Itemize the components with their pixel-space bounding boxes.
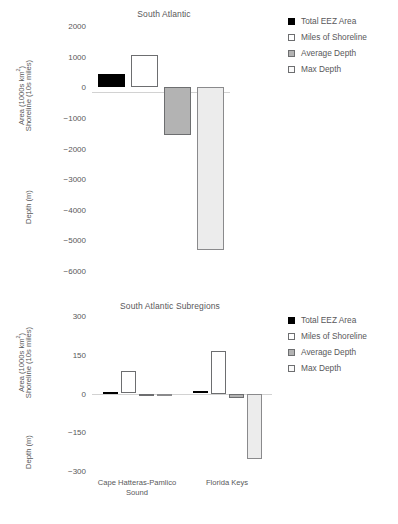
y-axis-label-shoreline-bottom: Shoreline (10s miles): [24, 300, 33, 425]
legend-swatch-avg-icon: [288, 50, 295, 57]
legend-label: Average Depth: [301, 347, 356, 357]
legend-swatch-eez-icon: [288, 18, 295, 25]
legend-item-shore[interactable]: Miles of Shoreline: [288, 328, 398, 344]
legend-label: Average Depth: [301, 48, 356, 58]
legend-bottom: Total EEZ AreaMiles of ShorelineAverage …: [288, 312, 398, 376]
legend-item-avg[interactable]: Average Depth: [288, 344, 398, 360]
bar-avg: [229, 394, 244, 399]
legend-item-eez[interactable]: Total EEZ Area: [288, 13, 398, 29]
x-axis-labels-bottom: Cape Hatteras-Pamlico SoundFlorida Keys: [92, 478, 272, 508]
x-axis-label: Cape Hatteras-Pamlico Sound: [92, 478, 182, 498]
legend-top: Total EEZ AreaMiles of ShorelineAverage …: [288, 13, 398, 77]
bar-shore: [211, 351, 226, 394]
x-axis-label: Florida Keys: [182, 478, 272, 488]
legend-swatch-shore-icon: [288, 34, 295, 41]
chart-title-bottom: South Atlantic Subregions: [70, 301, 270, 311]
y-tick-label: 300: [73, 312, 86, 321]
y-tick-label: −3000: [64, 175, 86, 184]
bar-eez: [98, 74, 125, 87]
legend-swatch-max-icon: [288, 365, 295, 372]
chart-south-atlantic: South Atlantic Area (1000s km2) Shorelin…: [0, 0, 398, 282]
bar-eez: [103, 392, 118, 394]
y-tick-label: 0: [82, 83, 86, 92]
zero-line-bottom: [92, 394, 272, 395]
plot-area-top: [92, 26, 230, 271]
y-tick-label: −2000: [64, 144, 86, 153]
y-tick-label: −5000: [64, 236, 86, 245]
bar-eez: [193, 391, 208, 394]
y-axis-ticks-top: 200010000−1000−2000−3000−4000−5000−6000: [38, 0, 86, 282]
page-caption-strip: [0, 513, 398, 524]
y-axis-label-depth-text: Depth (m): [24, 190, 33, 224]
y-tick-label: −300: [68, 467, 86, 476]
bar-shore: [131, 55, 158, 87]
y-tick-label: −6000: [64, 267, 86, 276]
bar-avg: [164, 87, 191, 135]
y-axis-label-depth-bottom: Depth (m): [24, 417, 33, 487]
y-tick-label: 1000: [68, 52, 86, 61]
legend-item-max[interactable]: Max Depth: [288, 360, 398, 376]
legend-label: Max Depth: [301, 64, 341, 74]
y-tick-label: 2000: [68, 22, 86, 31]
legend-swatch-max-icon: [288, 66, 295, 73]
legend-label: Miles of Shoreline: [301, 32, 367, 42]
legend-swatch-avg-icon: [288, 349, 295, 356]
plot-area-bottom: [92, 316, 272, 471]
bar-max: [157, 394, 172, 397]
chart-title-top: South Atlantic: [79, 9, 249, 19]
legend-label: Miles of Shoreline: [301, 331, 367, 341]
legend-label: Total EEZ Area: [301, 16, 356, 26]
legend-label: Max Depth: [301, 363, 341, 373]
legend-item-shore[interactable]: Miles of Shoreline: [288, 29, 398, 45]
y-tick-label: 150: [73, 350, 86, 359]
bar-shore: [121, 371, 136, 394]
bar-max: [197, 87, 224, 249]
legend-item-avg[interactable]: Average Depth: [288, 45, 398, 61]
y-axis-ticks-bottom: 3001500−150−300: [38, 282, 86, 524]
legend-label: Total EEZ Area: [301, 315, 356, 325]
bar-max: [247, 394, 262, 460]
chart-south-atlantic-subregions: South Atlantic Subregions Area (1000s km…: [0, 282, 398, 524]
y-tick-label: 0: [82, 389, 86, 398]
legend-swatch-eez-icon: [288, 317, 295, 324]
y-axis-label-shoreline-line1: Shoreline (10s miles): [24, 60, 33, 131]
legend-item-max[interactable]: Max Depth: [288, 61, 398, 77]
bar-avg: [139, 394, 154, 396]
legend-swatch-shore-icon: [288, 333, 295, 340]
y-tick-label: −4000: [64, 205, 86, 214]
y-tick-label: −150: [68, 428, 86, 437]
y-axis-label-depth-top: Depth (m): [24, 162, 33, 252]
y-tick-label: −1000: [64, 113, 86, 122]
legend-item-eez[interactable]: Total EEZ Area: [288, 312, 398, 328]
y-axis-label-shoreline-top: Shoreline (10s miles): [24, 28, 33, 163]
